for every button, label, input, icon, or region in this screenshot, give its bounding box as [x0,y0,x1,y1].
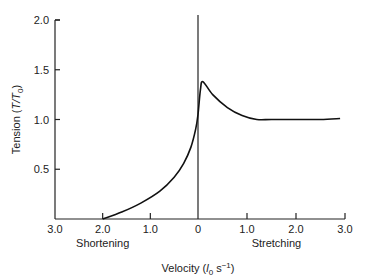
x-axis-title-prefix: Velocity ( [162,262,207,274]
axes [55,15,345,219]
x-tick-label: 3.0 [47,223,62,235]
y-tick-label: 0.5 [34,163,49,175]
y-tick-label: 2.0 [34,14,49,26]
chart: 0.51.01.52.03.02.01.001.02.03.0 Shorteni… [0,0,368,279]
x-tick-label: 2.0 [95,223,110,235]
series [103,82,340,219]
region-label: Shortening [76,237,129,249]
x-tick-label: 0 [195,223,201,235]
x-tick-label: 2.0 [288,223,303,235]
x-axis-title: Velocity (l0 s−1) [162,261,235,277]
x-tick-label: 1.0 [143,223,158,235]
region-label: Stretching [252,237,302,249]
y-tick-label: 1.5 [34,64,49,76]
labels: ShorteningStretchingVelocity (l0 s−1)Ten… [10,85,301,277]
y-axis-title-var: T/T [10,92,22,110]
y-tick-label: 1.0 [34,114,49,126]
series-line-force-velocity [103,82,340,219]
x-tick-label: 1.0 [239,223,254,235]
y-axis-title-prefix: Tension ( [10,109,22,154]
ticks: 0.51.01.52.03.02.01.001.02.03.0 [34,14,353,235]
y-axis-title-suffix: ) [10,85,22,89]
x-tick-label: 3.0 [337,223,352,235]
y-axis-title: Tension (T/T0) [10,85,25,154]
x-axis-title-suffix: ) [231,262,235,274]
